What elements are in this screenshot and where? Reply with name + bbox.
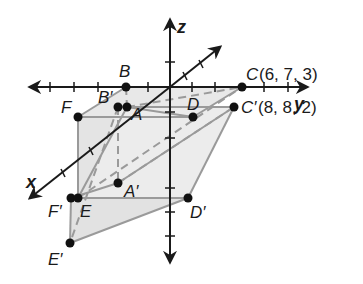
point-B-prime [114,103,123,112]
point-A-prime [114,179,123,188]
z-axis-label: z [176,17,186,37]
point-D-prime [184,194,193,203]
label-D: D [187,95,199,114]
label-F: F [61,98,73,117]
point-E-prime [66,239,75,248]
x-axis-label: x [25,172,37,192]
point-F [74,113,83,122]
label-F-prime: F′ [48,202,62,221]
label-D-prime: D′ [190,203,206,222]
point-C-prime [230,103,239,112]
3d-coordinate-diagram: z y x B C (6, 7, 3) B′ A F D C′ (8, 8, 2… [0,0,363,284]
label-A: A [130,105,142,124]
label-E-prime: E′ [48,250,63,269]
point-B [122,83,131,92]
label-C-prime-coords: (8, 8, 2) [258,98,317,117]
label-A-prime: A′ [123,182,139,201]
label-B-prime: B′ [98,88,113,107]
label-B: B [119,62,130,81]
x-axis [170,47,220,87]
label-C: C [246,65,259,84]
label-C-prime: C′ [241,98,257,117]
label-E: E [80,202,92,221]
label-C-coords: (6, 7, 3) [259,65,318,84]
